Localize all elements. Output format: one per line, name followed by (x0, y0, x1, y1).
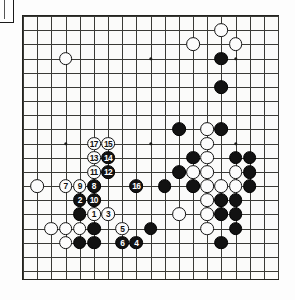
stone-white[interactable] (229, 165, 243, 179)
grid-line-vertical (37, 16, 38, 279)
star-point (64, 142, 67, 145)
star-point (149, 142, 152, 145)
grid-line-horizontal (23, 257, 278, 258)
move-number-label: 12 (101, 164, 116, 179)
stone-black[interactable] (73, 208, 87, 222)
grid-line-vertical (250, 16, 251, 279)
move-number-label: 4 (129, 235, 144, 250)
star-point (234, 57, 237, 60)
stone-black[interactable] (215, 236, 229, 250)
star-point (149, 57, 152, 60)
stone-black[interactable] (172, 122, 186, 136)
stone-black[interactable] (73, 236, 87, 250)
stone-black[interactable] (229, 222, 243, 236)
stone-black[interactable] (215, 208, 229, 222)
move-number-label: 9 (72, 179, 87, 194)
stone-white[interactable] (30, 179, 44, 193)
stone-white[interactable] (200, 208, 214, 222)
move-number-label: 8 (86, 179, 101, 194)
go-board[interactable]: 1234567891011121314151617 (22, 15, 279, 280)
grid-line-vertical (165, 16, 166, 279)
stone-white[interactable] (200, 179, 214, 193)
move-number-label: 14 (101, 150, 116, 165)
stone-white[interactable] (200, 151, 214, 165)
move-number-label: 15 (101, 136, 116, 151)
move-number-label: 16 (129, 179, 144, 194)
stone-white[interactable] (59, 236, 73, 250)
stone-black[interactable] (229, 151, 243, 165)
go-board-container[interactable]: 1234567891011121314151617 (22, 15, 277, 278)
stone-black[interactable] (215, 80, 229, 94)
stone-black[interactable] (172, 165, 186, 179)
stone-white[interactable] (215, 23, 229, 37)
stone-white[interactable] (200, 193, 214, 207)
move-number-label: 5 (115, 221, 130, 236)
stone-black[interactable] (87, 222, 101, 236)
scan-page-edge-inner-artifact (0, 0, 5, 19)
grid-line-vertical (193, 16, 194, 279)
move-number-label: 2 (72, 193, 87, 208)
move-number-label: 11 (86, 164, 101, 179)
star-point (234, 142, 237, 145)
stone-white[interactable] (73, 222, 87, 236)
stone-black[interactable] (87, 236, 101, 250)
move-number-label: 3 (101, 207, 116, 222)
stone-white[interactable] (215, 179, 229, 193)
stone-black[interactable] (215, 193, 229, 207)
stone-black[interactable] (243, 151, 257, 165)
stone-white[interactable] (200, 122, 214, 136)
stone-white[interactable] (172, 208, 186, 222)
stone-black[interactable] (215, 52, 229, 66)
stone-black[interactable] (243, 165, 257, 179)
stone-black[interactable] (215, 122, 229, 136)
stone-white[interactable] (186, 165, 200, 179)
grid-line-vertical (151, 16, 152, 279)
stone-white[interactable] (229, 37, 243, 51)
grid-line-vertical (51, 16, 52, 279)
grid-line-vertical (278, 16, 279, 279)
move-number-label: 13 (86, 150, 101, 165)
move-number-label: 17 (86, 136, 101, 151)
move-number-label: 6 (115, 235, 130, 250)
grid-line-horizontal (23, 271, 278, 272)
move-number-label: 1 (86, 207, 101, 222)
stone-white[interactable] (186, 37, 200, 51)
stone-white[interactable] (44, 222, 58, 236)
diagram-page: 1234567891011121314151617 (0, 0, 295, 300)
stone-black[interactable] (229, 193, 243, 207)
move-number-label: 10 (86, 193, 101, 208)
stone-black[interactable] (186, 151, 200, 165)
stone-white[interactable] (229, 179, 243, 193)
move-number-label: 7 (58, 179, 73, 194)
stone-black[interactable] (229, 208, 243, 222)
stone-white[interactable] (200, 222, 214, 236)
grid-line-vertical (179, 16, 180, 279)
stone-black[interactable] (144, 222, 158, 236)
stone-black[interactable] (243, 179, 257, 193)
stone-black[interactable] (186, 179, 200, 193)
stone-black[interactable] (158, 179, 172, 193)
stone-white[interactable] (59, 222, 73, 236)
grid-line-vertical (264, 16, 265, 279)
stone-white[interactable] (200, 137, 214, 151)
grid-line-vertical (23, 16, 24, 279)
stone-white[interactable] (200, 165, 214, 179)
grid-line-vertical (236, 16, 237, 279)
stone-white[interactable] (59, 52, 73, 66)
